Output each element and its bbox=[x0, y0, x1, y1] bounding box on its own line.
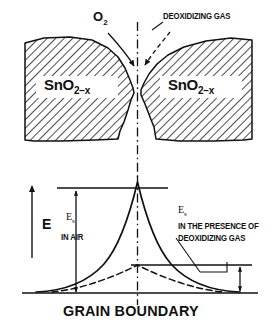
es-air-condition: IN AIR bbox=[61, 232, 83, 242]
oxygen-label: O2 bbox=[93, 10, 108, 27]
grain-boundary-figure: O2 DEOXIDIZING GAS SnO2−x SnO2−x E Es IN… bbox=[0, 0, 277, 330]
grain-right-label: SnO2−x bbox=[168, 77, 214, 97]
energy-axis-label: E bbox=[42, 217, 51, 232]
deoxidizing-gas-leader bbox=[152, 22, 163, 30]
es-gas-leader-line bbox=[176, 238, 200, 272]
figure-title: GRAIN BOUNDARY bbox=[63, 303, 199, 319]
es-air-symbol: Es bbox=[66, 212, 75, 225]
grain-left-label: SnO2−x bbox=[44, 77, 90, 97]
es-gas-condition-line1: IN THE PRESENCE OF bbox=[178, 221, 259, 231]
es-gas-condition-line2: DEOXIDIZING GAS bbox=[178, 233, 245, 243]
es-gas-leader-step bbox=[200, 262, 227, 272]
deoxidizing-gas-label: DEOXIDIZING GAS bbox=[163, 11, 230, 21]
es-gas-symbol: Es bbox=[178, 205, 187, 218]
figure-canvas bbox=[0, 0, 277, 330]
